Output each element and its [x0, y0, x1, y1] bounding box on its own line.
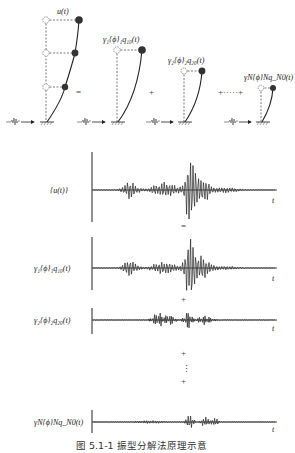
time-history-mode-1: γ₁{ϕ}₁q₁₀(t) t [34, 237, 277, 290]
open-node-icon [43, 50, 49, 56]
plus-operator: + [181, 376, 186, 386]
waveform [93, 239, 275, 290]
time-axis-label: t [272, 274, 275, 283]
mode-decomposition-diagram: u(t) = γ₁{ϕ}₁q₁₀(t) + γ₂{ϕ}₂q₂₀(t) +····… [0, 0, 295, 453]
plus-ellipsis-operator: +·····+ [218, 87, 243, 97]
open-node-icon [114, 47, 120, 53]
signal-label: γ₂{ϕ}₂q₂₀(t) [34, 316, 71, 325]
frame-label: γN{ϕ}Nq_N0(t) [244, 73, 294, 82]
open-node-icon [258, 85, 264, 91]
equals-operator: = [76, 87, 81, 97]
time-axis-label: t [272, 324, 275, 333]
frame-label: u(t) [57, 7, 69, 16]
plus-operator: + [181, 294, 186, 304]
mass-node-icon [199, 68, 206, 75]
mass-node-icon [138, 46, 146, 54]
signal-label: {u(t)} [50, 186, 69, 195]
time-axis-label: t [272, 425, 275, 434]
vertical-ellipsis: ⋮ [182, 364, 191, 374]
open-node-icon [43, 84, 49, 90]
frame-label: γ₁{ϕ}₁q₁₀(t) [103, 35, 140, 44]
frame-total: u(t) [6, 7, 83, 125]
mass-node-icon [72, 50, 79, 57]
signal-label: γN{ϕ}Nq_N0(t) [34, 418, 84, 427]
waveform [93, 313, 275, 328]
mass-node-icon [270, 85, 276, 91]
time-axis-label: t [272, 196, 275, 205]
time-history-mode-2: γ₂{ϕ}₂q₂₀(t) t [34, 308, 277, 334]
signal-label: γ₁{ϕ}₁q₁₀(t) [34, 264, 71, 273]
frame-mode-2: γ₂{ϕ}₂q₂₀(t) [146, 56, 205, 125]
time-history-mode-n: γN{ϕ}Nq_N0(t) t [34, 410, 277, 434]
plus-operator: + [149, 87, 154, 97]
mass-node-icon [75, 16, 83, 24]
frame-mode-n: γN{ϕ}Nq_N0(t) [224, 73, 294, 125]
open-node-icon [181, 68, 187, 74]
time-history-total: {u(t)} t [50, 152, 277, 222]
waveform [93, 163, 275, 219]
frame-label: γ₂{ϕ}₂q₂₀(t) [168, 56, 205, 65]
plus-operator: + [181, 348, 186, 358]
figure-caption: 图 5.1-1 振型分解法原理示意 [76, 440, 207, 451]
open-node-icon [43, 17, 49, 23]
frame-mode-1: γ₁{ϕ}₁q₁₀(t) [77, 35, 146, 125]
waveform [93, 416, 275, 428]
mass-node-icon [62, 84, 68, 90]
equals-operator: = [181, 221, 186, 231]
